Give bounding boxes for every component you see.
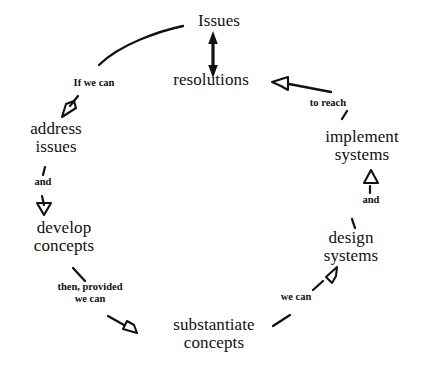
edge-label-and-right: and — [350, 194, 392, 206]
edge-label-and-right-text: and — [363, 194, 380, 205]
node-address-issues-label-line1: address — [30, 119, 82, 138]
node-resolutions[interactable]: resolutions — [155, 71, 267, 89]
node-implement-systems[interactable]: implement systems — [310, 128, 414, 164]
edge-label-if-we-can: If we can — [55, 77, 133, 89]
edge-label-and-left: and — [22, 176, 64, 188]
node-design-systems-label-line1: design — [329, 228, 374, 247]
node-address-issues[interactable]: address issues — [14, 120, 98, 156]
edge-label-then-provided-we-can-line2: we can — [42, 293, 138, 305]
node-substantiate-concepts[interactable]: substantiate concepts — [158, 316, 270, 352]
edge-label-then-provided-we-can: then, provided we can — [42, 281, 138, 305]
node-implement-systems-label-line2: systems — [310, 146, 414, 164]
node-substantiate-concepts-label-line1: substantiate — [173, 315, 254, 334]
edge-label-we-can: we can — [272, 291, 320, 303]
node-develop-concepts[interactable]: develop concepts — [14, 219, 114, 255]
edge-label-then-provided-we-can-line1: then, provided — [57, 281, 122, 292]
node-resolutions-label: resolutions — [173, 70, 249, 89]
diagram-canvas: Issues resolutions implement systems des… — [0, 0, 430, 374]
edge-label-to-reach-text: to reach — [310, 97, 346, 108]
edge-label-we-can-text: we can — [281, 291, 312, 302]
edge-label-if-we-can-text: If we can — [74, 77, 115, 88]
node-issues[interactable]: Issues — [183, 12, 255, 30]
node-address-issues-label-line2: issues — [14, 138, 98, 156]
edge-label-and-left-text: and — [35, 176, 52, 187]
node-implement-systems-label-line1: implement — [325, 127, 399, 146]
edge-label-to-reach: to reach — [297, 97, 359, 109]
node-design-systems[interactable]: design systems — [303, 229, 399, 265]
edge-address-issues-develop-concepts — [37, 167, 51, 215]
node-issues-label: Issues — [198, 11, 240, 30]
node-substantiate-concepts-label-line2: concepts — [158, 334, 270, 352]
node-develop-concepts-label-line2: concepts — [14, 237, 114, 255]
node-develop-concepts-label-line1: develop — [37, 218, 92, 237]
node-design-systems-label-line2: systems — [303, 247, 399, 265]
